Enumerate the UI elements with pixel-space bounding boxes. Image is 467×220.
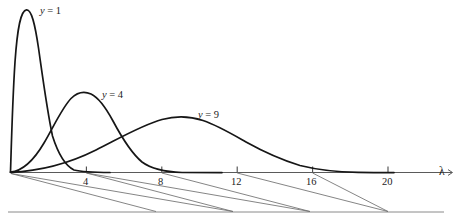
density-curve-y9: [11, 117, 395, 173]
curve-label-y4-val: 4: [118, 89, 123, 100]
curve-label-y4: y = 4: [102, 90, 123, 101]
x-axis-title: λ: [439, 166, 445, 178]
x-tick-label-16: 16: [306, 177, 317, 188]
connector-ray-6: [313, 173, 388, 212]
density-curves-figure: y = 1 y = 4 y = 9 4 8 12 16 20 λ: [0, 0, 467, 220]
curve-label-y9-eq: =: [205, 109, 211, 120]
density-curve-y1: [11, 10, 111, 173]
x-tick-label-8: 8: [158, 177, 163, 188]
curve-label-y1: y = 1: [40, 6, 61, 17]
curve-label-y9-var: y: [198, 109, 203, 120]
curve-label-y1-var: y: [40, 5, 45, 16]
curve-label-y4-var: y: [102, 89, 107, 100]
curve-label-y4-eq: =: [109, 89, 115, 100]
curve-label-y9-val: 9: [214, 109, 219, 120]
x-tick-label-12: 12: [231, 177, 242, 188]
curve-label-y1-eq: =: [47, 5, 53, 16]
density-curve-y4: [11, 92, 223, 172]
x-tick-label-4: 4: [83, 177, 88, 188]
x-tick-label-20: 20: [382, 177, 393, 188]
curve-label-y1-val: 1: [56, 5, 61, 16]
curve-label-y9: y = 9: [198, 110, 219, 121]
